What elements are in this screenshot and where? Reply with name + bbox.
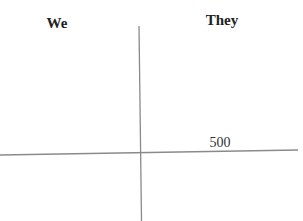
they-above-line-score: 500 — [210, 136, 231, 150]
score-grid — [0, 0, 303, 221]
column-header-they: They — [206, 13, 239, 28]
trick-line — [0, 150, 298, 155]
column-header-we: We — [47, 16, 68, 31]
center-divider-line — [139, 26, 142, 221]
